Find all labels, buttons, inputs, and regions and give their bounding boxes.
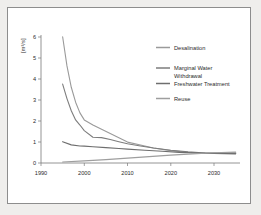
x-tick-label-1990: 1990: [35, 170, 47, 176]
x-tick-label-2010: 2010: [121, 170, 133, 176]
x-tick-label-2030: 2030: [208, 170, 220, 176]
legend-label-marginal-water: Marginal Water: [174, 65, 212, 71]
y-tick-label-5: 5: [33, 55, 36, 61]
x-tick-label-2000: 2000: [78, 170, 90, 176]
y-axis-title: [m³/s]: [20, 38, 26, 53]
y-tick-label-1: 1: [33, 139, 36, 145]
y-tick-label-6: 6: [33, 34, 36, 40]
series-line-marginal-water-withdrawal: [63, 84, 236, 153]
y-tick-label-0: 0: [33, 160, 36, 166]
legend-label-freshwater-treatment: Freshwater Treatment: [174, 81, 230, 87]
x-tick-label-2020: 2020: [165, 170, 177, 176]
line-chart: [m³/s] 6 5 4 3 2 1 0: [8, 8, 252, 205]
y-tick-label-3: 3: [33, 97, 36, 103]
series-group: [63, 37, 236, 162]
y-tick-label-4: 4: [33, 76, 36, 82]
legend-label-reuse: Reuse: [174, 96, 190, 102]
series-line-desalination: [63, 37, 236, 153]
chart-legend: Desalination Marginal Water Withdrawal F…: [156, 45, 230, 102]
legend-label-withdrawal: Withdrawal: [174, 73, 202, 79]
chart-frame: [m³/s] 6 5 4 3 2 1 0: [7, 7, 251, 204]
chart-page: [m³/s] 6 5 4 3 2 1 0: [0, 0, 261, 215]
legend-label-desalination: Desalination: [174, 45, 205, 51]
y-tick-label-2: 2: [33, 118, 36, 124]
